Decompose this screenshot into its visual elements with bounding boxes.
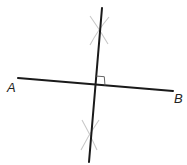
- label-point-b: B: [174, 91, 183, 106]
- perpendicular-bisector-diagram: A B: [0, 0, 187, 165]
- label-point-a: A: [6, 80, 16, 95]
